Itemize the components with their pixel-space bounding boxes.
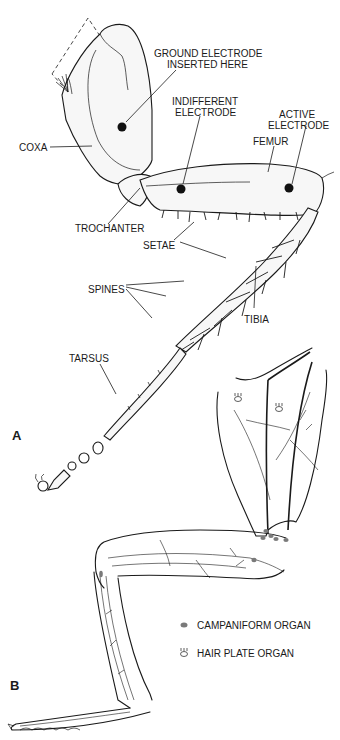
campaniform-organ-legend-icon bbox=[181, 623, 188, 628]
active-electrode-dot bbox=[285, 184, 294, 193]
panel-b-legend: CAMPANIFORM ORGAN HAIR PLATE ORGAN B bbox=[10, 620, 311, 693]
hair-plate-organ-legend-icon bbox=[181, 648, 188, 657]
spines-label: SPINES bbox=[88, 284, 125, 295]
hair-plate-organ bbox=[276, 403, 283, 412]
tibia-shape bbox=[176, 208, 318, 352]
setae-label: SETAE bbox=[143, 240, 175, 251]
femur-shape bbox=[140, 164, 324, 216]
tarsus-label: TARSUS bbox=[69, 353, 109, 364]
femur-label: FEMUR bbox=[253, 136, 289, 147]
hair-plate-organ-legend-label: HAIR PLATE ORGAN bbox=[197, 648, 294, 659]
panel-b-letter: B bbox=[10, 678, 19, 693]
tibia-label: TIBIA bbox=[244, 314, 269, 325]
panel-a-leg-drawing bbox=[35, 18, 334, 491]
campaniform-organ-legend-label: CAMPANIFORM ORGAN bbox=[197, 620, 311, 631]
ground-electrode-dot bbox=[118, 123, 127, 132]
active-electrode-label-line1: ACTIVE bbox=[279, 109, 315, 120]
ground-electrode-label-line1: GROUND ELECTRODE bbox=[154, 48, 263, 59]
insect-leg-diagram: GROUND ELECTRODE INSERTED HERE INDIFFERE… bbox=[0, 0, 340, 740]
panel-b-leg-drawing bbox=[8, 348, 327, 730]
hair-plate-organ bbox=[235, 393, 242, 402]
active-electrode-label-line2: ELECTRODE bbox=[268, 120, 329, 131]
panel-a-letter: A bbox=[12, 428, 22, 443]
indifferent-electrode-label-line2: ELECTRODE bbox=[175, 107, 236, 118]
coxa-shape bbox=[62, 24, 152, 184]
indifferent-electrode-label-line1: INDIFFERENT bbox=[172, 96, 238, 107]
ground-electrode-label-line2: INSERTED HERE bbox=[167, 59, 248, 70]
indifferent-electrode-dot bbox=[177, 185, 186, 194]
trochanter-label: TROCHANTER bbox=[75, 223, 144, 234]
coxa-label: COXA bbox=[19, 142, 48, 153]
tarsus-shape bbox=[104, 348, 186, 440]
